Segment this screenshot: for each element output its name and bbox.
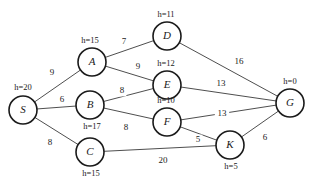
graph-edge-d-g xyxy=(179,43,277,97)
graph-canvas: 96879881613135206 Sh=20Ah=15Bh=17Ch=15Dh… xyxy=(0,0,317,188)
node-label-b: B xyxy=(87,98,94,110)
edge-weight-label: 8 xyxy=(120,85,125,95)
node-heuristic-e: h=12 xyxy=(157,58,175,68)
edge-weight-label: 6 xyxy=(60,94,65,104)
edge-weight-label: 8 xyxy=(124,122,129,132)
node-heuristic-f: h=10 xyxy=(157,95,175,105)
graph-edge-k-g xyxy=(241,111,278,137)
node-label-e: E xyxy=(163,78,171,90)
node-label-a: A xyxy=(88,55,96,67)
node-heuristic-k: h=5 xyxy=(224,161,237,171)
graph-edge-a-e xyxy=(105,66,153,81)
graph-edge-s-b xyxy=(37,106,76,109)
edge-weight-label: 20 xyxy=(159,155,169,165)
graph-edge-s-c xyxy=(35,117,78,144)
edge-weight-label: 5 xyxy=(196,134,201,144)
edge-weight-label: 7 xyxy=(122,36,127,46)
edge-weight-label: 16 xyxy=(235,56,245,66)
graph-edge-e-g xyxy=(181,87,276,101)
graph-edge-a-d xyxy=(105,41,154,58)
edge-weight-label: 13 xyxy=(218,108,228,118)
graph-edge-b-f xyxy=(104,108,154,119)
node-label-f: F xyxy=(163,115,171,127)
edge-weight-label: 13 xyxy=(217,78,227,88)
node-label-s: S xyxy=(20,103,26,115)
node-heuristic-d: h=11 xyxy=(157,9,174,19)
edge-weight-label: 8 xyxy=(48,137,53,147)
edge-weight-label: 9 xyxy=(136,61,141,71)
node-heuristic-a: h=15 xyxy=(81,35,99,45)
graph-edge-c-k xyxy=(104,146,216,152)
node-heuristic-g: h=0 xyxy=(283,76,296,86)
node-label-k: K xyxy=(225,138,234,150)
node-label-d: D xyxy=(162,29,171,41)
node-label-g: G xyxy=(286,96,294,108)
node-heuristic-b: h=17 xyxy=(83,121,101,131)
node-heuristic-s: h=20 xyxy=(14,82,32,92)
graph-diagram: 96879881613135206 Sh=20Ah=15Bh=17Ch=15Dh… xyxy=(0,0,317,188)
edge-weight-label: 6 xyxy=(263,132,268,142)
node-heuristic-c: h=15 xyxy=(82,168,100,178)
edge-weight-label: 9 xyxy=(50,67,55,77)
node-label-c: C xyxy=(86,145,94,157)
graph-edge-s-a xyxy=(34,70,80,102)
graph-edge-b-e xyxy=(104,89,154,102)
